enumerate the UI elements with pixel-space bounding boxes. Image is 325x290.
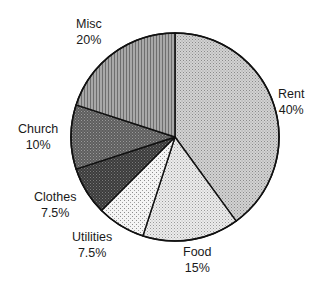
misc-name: Misc bbox=[76, 16, 102, 32]
utilities-name: Utilities bbox=[72, 229, 112, 245]
rent-name: Rent bbox=[278, 86, 304, 102]
slice-label-rent: Rent 40% bbox=[278, 86, 304, 118]
slice-label-clothes: Clothes 7.5% bbox=[34, 189, 76, 221]
pie-slices bbox=[71, 33, 279, 241]
clothes-name: Clothes bbox=[34, 189, 76, 205]
slice-label-utilities: Utilities 7.5% bbox=[72, 229, 112, 261]
church-percent: 10% bbox=[18, 137, 58, 153]
slice-label-food: Food 15% bbox=[183, 244, 212, 276]
church-name: Church bbox=[18, 121, 58, 137]
misc-percent: 20% bbox=[76, 32, 102, 48]
clothes-percent: 7.5% bbox=[34, 205, 76, 221]
slice-label-misc: Misc 20% bbox=[76, 16, 102, 48]
food-name: Food bbox=[183, 244, 212, 260]
rent-percent: 40% bbox=[278, 102, 304, 118]
utilities-percent: 7.5% bbox=[72, 245, 112, 261]
food-percent: 15% bbox=[183, 260, 212, 276]
slice-label-church: Church 10% bbox=[18, 121, 58, 153]
